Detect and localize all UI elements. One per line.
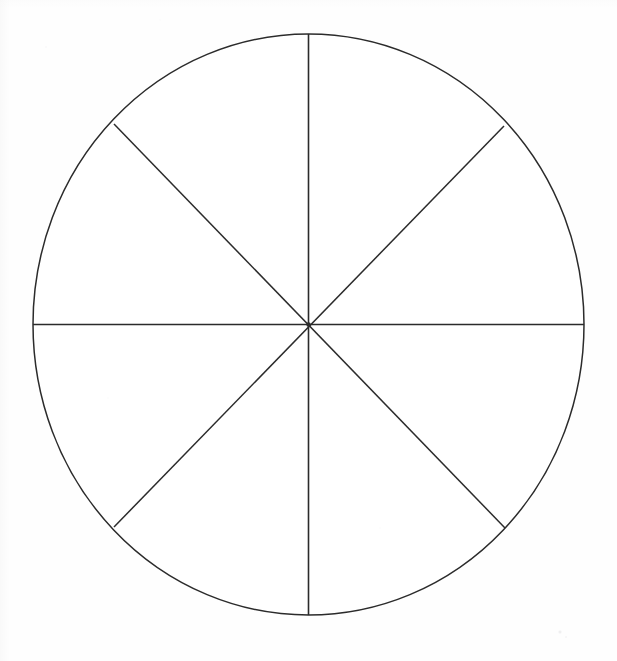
center-point-dot	[306, 322, 310, 326]
circle-eighths-figure	[0, 0, 617, 661]
